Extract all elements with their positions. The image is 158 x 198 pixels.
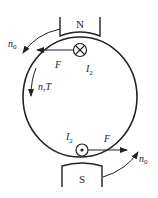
current-label-top: I2 — [85, 63, 93, 77]
field-speed-label-top: n0 — [8, 38, 17, 51]
current-label-bottom: I2 — [65, 131, 73, 145]
conductor-out-of-page-icon — [76, 144, 88, 156]
field-rotation-arrow-bottom — [103, 152, 138, 177]
south-pole-label: S — [79, 173, 85, 185]
force-label-bottom: F — [103, 133, 111, 144]
field-rotation-arrow-top — [23, 29, 60, 53]
rotor-rotation-arrow — [31, 68, 36, 96]
south-magnet: S — [62, 163, 102, 187]
force-label-top: F — [54, 59, 62, 70]
motor-diagram: N S F I2 F I2 n0 n0 n,T — [0, 0, 158, 198]
field-speed-label-bottom: n0 — [139, 153, 148, 166]
conductor-into-page-icon — [74, 44, 87, 57]
north-magnet: N — [60, 17, 100, 36]
north-pole-label: N — [76, 18, 84, 30]
rotor-speed-torque-label: n,T — [38, 81, 53, 92]
